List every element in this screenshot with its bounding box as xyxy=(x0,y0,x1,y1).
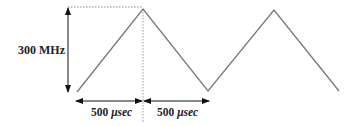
triangle-waveform xyxy=(77,9,339,92)
diagram-svg: 300 MHz 500 μsec 500 μsec xyxy=(0,0,354,126)
amplitude-label: 300 MHz xyxy=(18,43,66,57)
fmcw-triangle-diagram: 300 MHz 500 μsec 500 μsec xyxy=(0,0,354,126)
period-label-2: 500 μsec xyxy=(157,106,198,119)
period-label-1: 500 μsec xyxy=(91,106,132,119)
